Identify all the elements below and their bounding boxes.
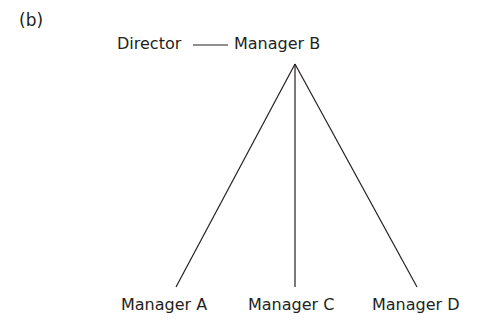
edge-manager-b-manager-d	[295, 64, 417, 287]
node-director: Director	[117, 35, 181, 53]
node-manager-b: Manager B	[234, 35, 320, 53]
edge-manager-b-manager-a	[176, 64, 295, 287]
node-manager-a: Manager A	[121, 296, 207, 314]
node-manager-d: Manager D	[372, 296, 460, 314]
node-manager-c: Manager C	[248, 296, 334, 314]
